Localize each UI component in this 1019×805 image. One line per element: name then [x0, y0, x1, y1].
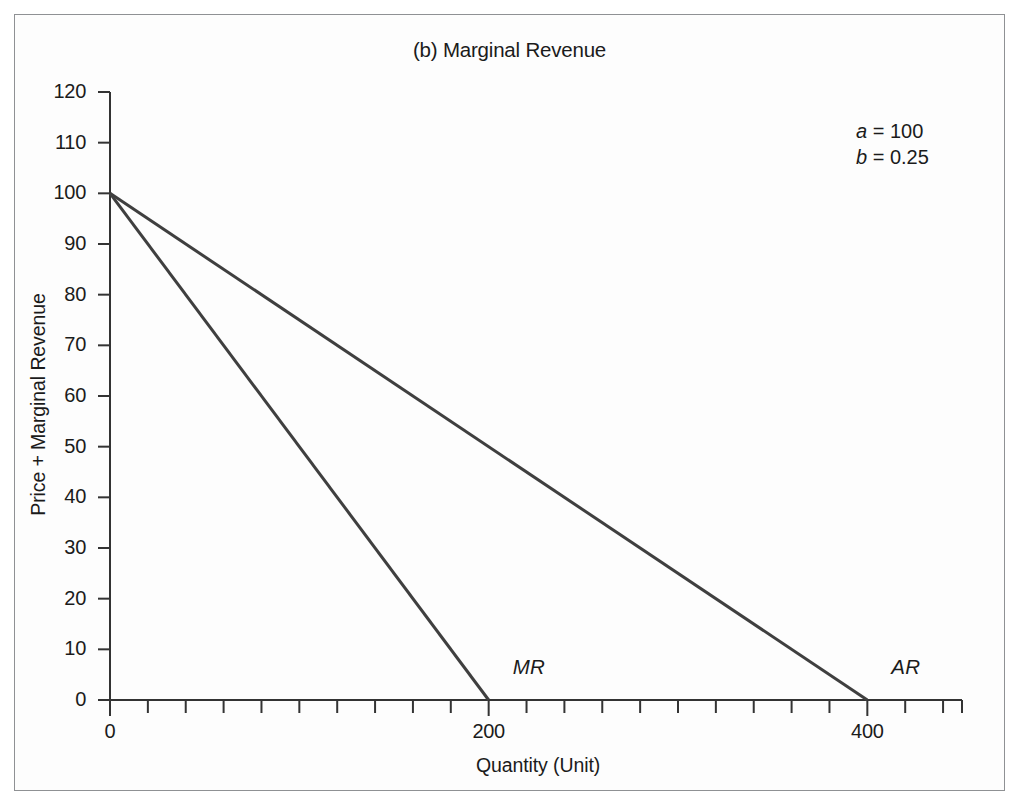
- curve-ar: [110, 193, 867, 700]
- y-tick-label: 120: [24, 80, 86, 103]
- figure-container: (b) Marginal Revenue a = 100 b = 0.25 01…: [0, 0, 1019, 805]
- x-tick-label: 200: [449, 720, 529, 743]
- y-axis-title: Price + Marginal Revenue: [27, 255, 50, 555]
- curve-mr: [110, 193, 489, 700]
- y-axis-ticks: [98, 92, 110, 700]
- y-tick-label: 10: [24, 637, 86, 660]
- y-tick-label: 90: [24, 232, 86, 255]
- axis-lines: [110, 92, 962, 700]
- plot-area: [0, 0, 1019, 805]
- y-tick-label: 110: [24, 131, 86, 154]
- x-tick-label: 400: [827, 720, 907, 743]
- data-curves: [110, 193, 867, 700]
- curve-label-mr: MR: [513, 655, 545, 679]
- x-axis-title: Quantity (Unit): [110, 754, 966, 777]
- y-tick-label: 100: [24, 181, 86, 204]
- curve-label-ar: AR: [891, 655, 920, 679]
- x-axis-ticks: [110, 700, 962, 716]
- y-tick-label: 20: [24, 587, 86, 610]
- x-tick-label: 0: [70, 720, 150, 743]
- y-tick-label: 0: [24, 688, 86, 711]
